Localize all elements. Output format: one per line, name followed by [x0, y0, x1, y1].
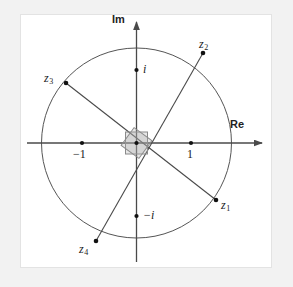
point-one [189, 141, 193, 145]
point-minus-one [80, 141, 84, 145]
point-minus-i [134, 214, 138, 218]
point-i [134, 68, 138, 72]
point-origin [134, 141, 138, 145]
figure-root: Re Im 1 −1 i −i z1 z2 z3 z4 [0, 0, 293, 287]
label-z3: z3 [44, 72, 53, 86]
tick-label-one: 1 [187, 148, 193, 160]
label-z4-base: z [79, 242, 84, 256]
label-z1-base: z [221, 198, 226, 212]
point-z1 [214, 198, 219, 203]
tick-label-minus-i: −i [143, 209, 154, 221]
real-axis-label: Re [230, 119, 244, 130]
label-z4: z4 [79, 243, 88, 257]
label-z1: z1 [221, 199, 230, 213]
plot-canvas [0, 0, 293, 287]
imaginary-axis-label: Im [112, 14, 125, 25]
tick-label-i: i [143, 63, 146, 75]
label-z1-subscript: 1 [226, 204, 230, 213]
label-z3-base: z [44, 71, 49, 85]
label-z2-subscript: 2 [204, 43, 208, 52]
point-z3 [64, 81, 69, 86]
point-z4 [94, 239, 99, 244]
label-z2: z2 [199, 38, 208, 52]
label-z3-subscript: 3 [49, 77, 53, 86]
tick-label-minus-one: −1 [73, 148, 86, 160]
label-z4-subscript: 4 [84, 248, 88, 257]
label-z2-base: z [199, 37, 204, 51]
